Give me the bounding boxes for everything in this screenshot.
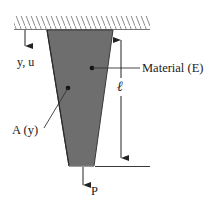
area-label: A (y) <box>12 123 38 137</box>
fixed-support <box>14 16 150 30</box>
tapered-bar-diagram: y, u Material (E) A (y) ℓ P <box>0 0 213 206</box>
tapered-bar <box>47 30 113 166</box>
length-label: ℓ <box>117 79 123 94</box>
axis-label: y, u <box>17 55 34 69</box>
load-label: P <box>91 184 98 198</box>
material-label: Material (E) <box>142 61 203 75</box>
